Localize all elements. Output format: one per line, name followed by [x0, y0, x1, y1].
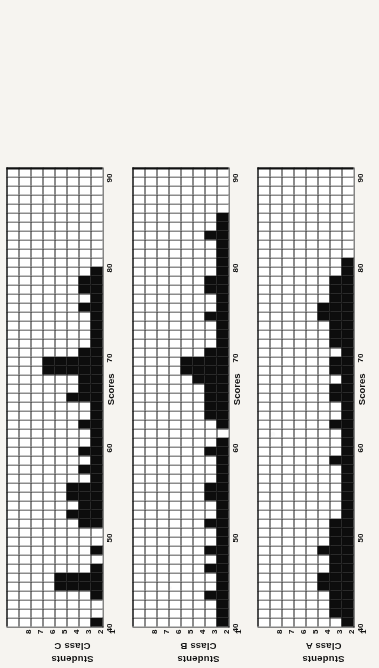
- empty-cell: [180, 456, 192, 465]
- empty-cell: [42, 591, 54, 600]
- empty-cell: [66, 294, 78, 303]
- filled-cell: [90, 339, 102, 348]
- filled-cell: [66, 483, 78, 492]
- empty-cell: [156, 465, 168, 474]
- empty-cell: [192, 294, 204, 303]
- empty-cell: [269, 294, 281, 303]
- filled-cell: [329, 564, 341, 573]
- empty-cell: [132, 510, 144, 519]
- empty-cell: [204, 429, 216, 438]
- empty-cell: [42, 573, 54, 582]
- histogram-column: [6, 564, 102, 573]
- empty-cell: [341, 204, 353, 213]
- empty-cell: [132, 393, 144, 402]
- plot-area-class-c: 405060708090Scores: [6, 168, 117, 628]
- empty-cell: [18, 474, 30, 483]
- histogram-column: [257, 528, 353, 537]
- filled-cell: [341, 276, 353, 285]
- empty-cell: [257, 312, 269, 321]
- empty-cell: [156, 582, 168, 591]
- empty-cell: [305, 393, 317, 402]
- empty-cell: [168, 474, 180, 483]
- empty-cell: [42, 339, 54, 348]
- empty-cell: [66, 204, 78, 213]
- empty-cell: [168, 447, 180, 456]
- empty-cell: [42, 555, 54, 564]
- empty-cell: [30, 564, 42, 573]
- empty-cell: [54, 321, 66, 330]
- empty-cell: [18, 312, 30, 321]
- empty-cell: [144, 591, 156, 600]
- empty-cell: [144, 429, 156, 438]
- histogram-column: [257, 447, 353, 456]
- empty-cell: [18, 222, 30, 231]
- empty-cell: [6, 330, 18, 339]
- empty-cell: [18, 195, 30, 204]
- empty-cell: [168, 312, 180, 321]
- empty-cell: [66, 348, 78, 357]
- empty-cell: [305, 384, 317, 393]
- empty-cell: [281, 249, 293, 258]
- y-tick-6: 6: [46, 629, 58, 638]
- empty-cell: [168, 222, 180, 231]
- empty-cell: [18, 168, 30, 177]
- filled-cell: [90, 420, 102, 429]
- empty-cell: [293, 591, 305, 600]
- empty-cell: [18, 447, 30, 456]
- empty-cell: [281, 573, 293, 582]
- filled-cell: [54, 366, 66, 375]
- empty-cell: [18, 537, 30, 546]
- histogram-column: [6, 582, 102, 591]
- empty-cell: [257, 195, 269, 204]
- empty-cell: [66, 555, 78, 564]
- empty-cell: [78, 474, 90, 483]
- empty-cell: [269, 447, 281, 456]
- empty-cell: [269, 321, 281, 330]
- empty-cell: [305, 510, 317, 519]
- empty-cell: [30, 492, 42, 501]
- empty-cell: [90, 195, 102, 204]
- empty-cell: [204, 222, 216, 231]
- empty-cell: [30, 582, 42, 591]
- filled-cell: [204, 375, 216, 384]
- empty-cell: [168, 501, 180, 510]
- empty-cell: [168, 186, 180, 195]
- empty-cell: [78, 240, 90, 249]
- empty-cell: [30, 618, 42, 627]
- empty-cell: [54, 483, 66, 492]
- empty-cell: [281, 186, 293, 195]
- empty-cell: [305, 195, 317, 204]
- empty-cell: [144, 222, 156, 231]
- empty-cell: [18, 213, 30, 222]
- empty-cell: [156, 420, 168, 429]
- empty-cell: [269, 456, 281, 465]
- filled-cell: [90, 267, 102, 276]
- panel-title-class-a: Class A: [277, 639, 369, 651]
- empty-cell: [132, 618, 144, 627]
- histogram-column: [6, 240, 102, 249]
- empty-cell: [281, 384, 293, 393]
- empty-cell: [132, 402, 144, 411]
- histogram-column: [257, 285, 353, 294]
- empty-cell: [192, 537, 204, 546]
- empty-cell: [293, 501, 305, 510]
- empty-cell: [18, 357, 30, 366]
- empty-cell: [204, 204, 216, 213]
- empty-cell: [42, 483, 54, 492]
- empty-cell: [18, 573, 30, 582]
- histogram-column: [6, 330, 102, 339]
- empty-cell: [42, 204, 54, 213]
- empty-cell: [132, 168, 144, 177]
- empty-cell: [144, 276, 156, 285]
- empty-cell: [269, 267, 281, 276]
- empty-cell: [156, 438, 168, 447]
- empty-cell: [78, 204, 90, 213]
- empty-cell: [341, 195, 353, 204]
- empty-cell: [18, 501, 30, 510]
- empty-cell: [257, 573, 269, 582]
- empty-cell: [6, 339, 18, 348]
- filled-cell: [216, 501, 228, 510]
- empty-cell: [54, 393, 66, 402]
- filled-cell: [317, 582, 329, 591]
- empty-cell: [305, 429, 317, 438]
